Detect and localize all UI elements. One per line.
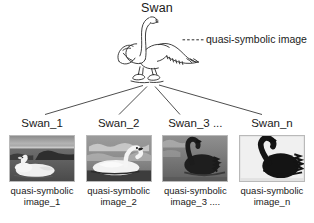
instance-caption: quasi-symbolic image_n xyxy=(241,185,304,207)
edge-to-swan-n xyxy=(159,85,262,115)
instance-caption: quasi-symbolic image_1 xyxy=(11,185,74,207)
instance-title: Swan_1 xyxy=(21,116,63,130)
caption-line-2: image_2 xyxy=(87,196,150,207)
edge-to-swan-3 xyxy=(155,87,180,115)
caption-line-1: quasi-symbolic xyxy=(164,185,227,196)
swan-photo-white-swimming[interactable] xyxy=(86,135,152,182)
instance-swan-3: Swan_3 ... xyxy=(159,116,231,223)
swan-photo-black-swimming[interactable] xyxy=(162,135,228,182)
swan-photo-black-profile[interactable] xyxy=(239,135,305,182)
instance-title: Swan_n xyxy=(251,116,293,130)
caption-line-1: quasi-symbolic xyxy=(87,185,150,196)
instance-title: Swan_3 ... xyxy=(168,116,222,130)
instance-caption: quasi-symbolic image_2 xyxy=(87,185,150,207)
instance-swan-2: Swan_2 xyxy=(83,116,155,223)
edge-to-swan-1 xyxy=(45,86,143,115)
caption-line-1: quasi-symbolic xyxy=(11,185,74,196)
diagram-canvas: Swan xyxy=(0,0,314,223)
instance-title: Swan_2 xyxy=(98,116,140,130)
swan-photo-white-on-lake[interactable] xyxy=(9,135,75,182)
instance-caption: quasi-symbolic image_3 .... xyxy=(164,185,227,207)
instance-swan-n: Swan_n quasi-symbolic image_n xyxy=(236,116,308,223)
caption-line-2: image_1 xyxy=(11,196,74,207)
caption-line-2: image_3 .... xyxy=(164,196,227,207)
caption-line-1: quasi-symbolic xyxy=(241,185,304,196)
caption-line-2: image_n xyxy=(241,196,304,207)
instance-row: Swan_1 xyxy=(0,116,314,223)
edge-to-swan-2 xyxy=(119,87,147,115)
instance-swan-1: Swan_1 xyxy=(6,116,78,223)
